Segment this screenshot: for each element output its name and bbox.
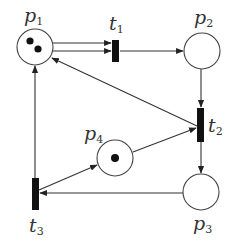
petri-net-diagram: p1 p2 p3 p4 t1 t2 t3 [0, 0, 231, 252]
place-p3 [183, 174, 219, 210]
place-p2 [184, 33, 220, 69]
token [111, 154, 119, 162]
place-p1 [17, 29, 53, 65]
place-circle [183, 174, 219, 210]
arc-t2-p1 [52, 58, 197, 126]
place-circle [17, 29, 53, 65]
transition-t1 [112, 40, 119, 62]
arc-t3-p4 [39, 165, 97, 190]
label-p2: p2 [194, 6, 213, 30]
transition-t3 [32, 178, 39, 210]
arc-p4-t2 [133, 128, 196, 152]
label-t3: t3 [29, 214, 44, 238]
label-t1: t1 [109, 12, 124, 36]
place-circle [184, 33, 220, 69]
label-t2: t2 [208, 114, 223, 138]
label-p1: p1 [24, 4, 43, 28]
token [34, 45, 41, 52]
transition-t2 [197, 108, 204, 142]
token [26, 37, 33, 44]
label-p3: p3 [193, 212, 212, 236]
label-p4: p4 [84, 122, 103, 146]
